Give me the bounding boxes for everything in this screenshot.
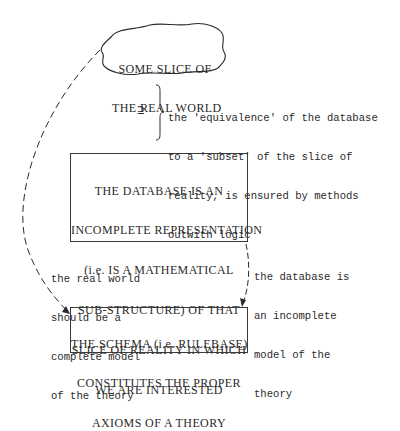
database-box: THE DATABASE IS AN INCOMPLETE REPRESENTA… [70, 153, 248, 242]
right-note: the database is an incomplete model of t… [254, 245, 349, 414]
note-line: an incomplete [254, 310, 349, 323]
box-line: CONSTITUTES THE PROPER [71, 377, 247, 390]
box-line: THE DATABASE IS AN [71, 185, 247, 198]
box-line: INCOMPLETE REPRESENTATION [71, 224, 247, 237]
box-line: THE SCHEMA (i.e. RULEBASE) [71, 338, 247, 351]
note-line: the 'equivalence' of the database [168, 112, 378, 125]
cloud-line: SOME SLICE OF [112, 63, 218, 76]
schema-box: THE SCHEMA (i.e. RULEBASE) CONSTITUTES T… [70, 307, 248, 353]
note-line: the real world [51, 273, 140, 286]
note-line: the database is [254, 271, 349, 284]
box-line: AXIOMS OF A THEORY [71, 417, 247, 430]
note-line: model of the [254, 349, 349, 362]
superset-symbol: ⊇ [137, 105, 144, 118]
note-line: theory [254, 388, 349, 401]
schema-box-text: THE SCHEMA (i.e. RULEBASE) CONSTITUTES T… [71, 311, 247, 431]
